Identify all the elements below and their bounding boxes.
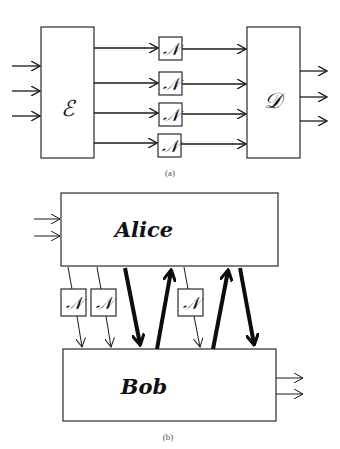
bob-label: Bob	[120, 374, 167, 399]
thick-arrow-down	[240, 268, 254, 344]
noisy-channel-arrow	[194, 316, 200, 347]
noise-box: 𝒩	[91, 289, 118, 316]
noise-box: 𝒩	[159, 72, 185, 95]
alice-label: Alice	[113, 217, 173, 242]
noisy-channel-line	[68, 267, 72, 289]
noisy-channel-arrow	[106, 316, 111, 347]
decoder-outputs	[300, 71, 327, 121]
alice-inputs	[34, 219, 60, 236]
encoder-inputs	[12, 66, 40, 116]
noisy-channel-line	[97, 267, 101, 289]
decoder-box: 𝒟	[247, 27, 300, 158]
noise-box: 𝒩	[178, 289, 205, 316]
thick-arrow-up	[157, 271, 171, 349]
noise-box: 𝒩	[61, 289, 88, 316]
alice-box: Alice	[61, 193, 278, 266]
thick-arrow-up	[213, 271, 228, 349]
bob-outputs	[276, 378, 303, 394]
noisy-channel-arrow	[77, 316, 82, 347]
diagram-canvas: ℰ 𝒩 𝒩 𝒩 𝒩	[0, 0, 340, 449]
noise-box: 𝒩	[159, 103, 185, 126]
caption-b: (b)	[163, 432, 174, 442]
diagram-a: ℰ 𝒩 𝒩 𝒩 𝒩	[12, 27, 327, 178]
channels: 𝒩 𝒩 𝒩 𝒩	[94, 37, 246, 157]
noise-box: 𝒩	[158, 134, 184, 157]
noisy-channel-line	[184, 267, 188, 289]
encoder-box: ℰ	[41, 27, 94, 158]
diagram-b: Alice Bob 𝒩 𝒩 𝒩	[34, 193, 303, 442]
caption-a: (a)	[165, 168, 175, 178]
thick-arrow-down	[125, 268, 140, 344]
noise-box: 𝒩	[159, 37, 185, 60]
bob-box: Bob	[63, 349, 276, 421]
